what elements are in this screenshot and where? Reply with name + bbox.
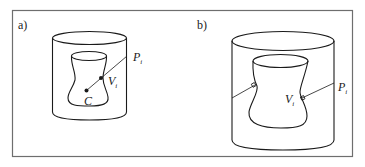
label-p-b: Pi	[337, 80, 347, 96]
panel-a-label: a)	[18, 18, 27, 32]
normal-line-right	[302, 83, 334, 98]
panel-b-label: b)	[197, 18, 207, 32]
figure-canvas: a) C Vi Pi b)	[0, 0, 365, 167]
ray-c-to-p	[87, 56, 128, 91]
panel-a: a) C Vi Pi	[18, 18, 142, 120]
inner-body-b	[249, 55, 308, 129]
outer-cylinder-b	[232, 32, 334, 151]
point-v-dot	[99, 76, 103, 80]
panel-b: b) Vi Pi	[197, 18, 347, 150]
normal-line-left	[232, 85, 255, 98]
label-c-a: C	[84, 94, 93, 108]
point-c-dot	[85, 89, 89, 93]
label-v-a: Vi	[108, 74, 117, 90]
label-v-b: Vi	[285, 92, 294, 108]
label-p-a: Pi	[132, 50, 142, 66]
